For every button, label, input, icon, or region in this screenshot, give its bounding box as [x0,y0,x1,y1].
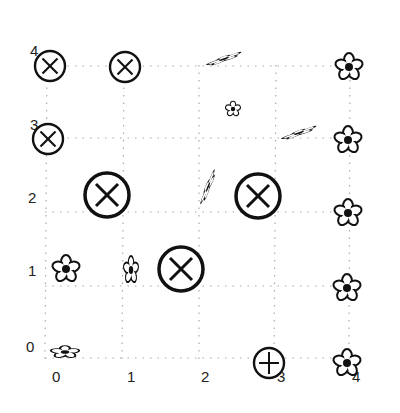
circle-x-marker [159,247,203,291]
circle-x-marker [236,174,280,218]
flower-marker-flattened [49,346,80,359]
circle-x-marker [35,51,65,81]
x-tick-1: 1 [127,368,135,385]
y-axis-ticks: 4 3 2 1 0 [26,42,38,355]
circle-x-marker [110,52,140,82]
flower-marker [333,126,363,154]
circle-plus-marker [254,348,284,378]
flower-marker [333,199,363,227]
flower-marker [332,349,362,377]
scatter-chart: 4 3 2 1 0 0 1 2 3 4 [0,0,400,413]
flower-marker-tiny [225,101,241,117]
flower-marker [51,255,81,283]
x-tick-0: 0 [52,368,60,385]
flower-marker-flattened [198,168,217,206]
x-axis-ticks: 0 1 2 3 4 [52,368,360,385]
circle-x-marker [33,124,63,154]
flower-marker-flattened [205,50,243,68]
flower-marker-flattened [280,124,318,142]
y-tick-2: 2 [28,189,36,206]
flower-marker-narrow [123,256,139,284]
y-tick-1: 1 [28,262,36,279]
circle-x-marker [85,173,129,217]
grid [45,65,350,360]
y-tick-0: 0 [26,338,34,355]
x-tick-2: 2 [201,368,209,385]
flower-marker [332,274,362,302]
flower-marker [334,53,364,81]
